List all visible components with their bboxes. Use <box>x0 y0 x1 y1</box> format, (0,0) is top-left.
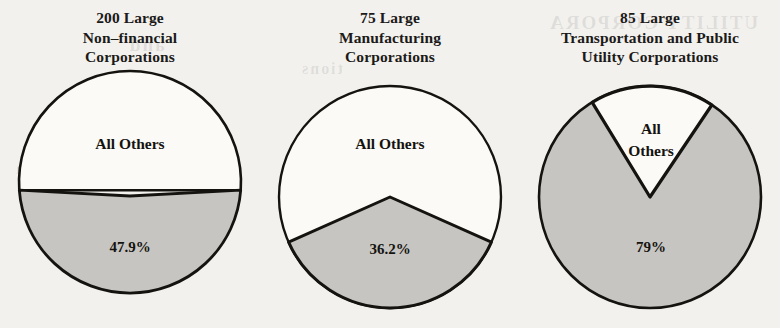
pie-slice-all-others-1 <box>19 71 241 190</box>
slice-label-percent-3: 79% <box>636 239 666 255</box>
pie-chart-panel-1: 200 Large Non–financial Corporations All… <box>0 0 260 328</box>
chart-title-line: Non–financial <box>0 28 260 48</box>
figure-sheet: and UTILITY CORPORA lion tions 200 Large… <box>0 0 780 328</box>
pie-svg-1: All Others 47.9% <box>18 86 242 310</box>
chart-title-line: Corporations <box>0 47 260 67</box>
chart-title-3: 85 Large Transportation and Public Utili… <box>520 8 780 67</box>
pie-svg-2: All Others 36.2% <box>278 86 502 310</box>
chart-title-line: 200 Large <box>0 8 260 28</box>
slice-label-all-others-1: All Others <box>95 135 164 152</box>
chart-title-line: Utility Corporations <box>520 47 780 67</box>
chart-title-1: 200 Large Non–financial Corporations <box>0 8 260 67</box>
chart-title-line: 85 Large <box>520 8 780 28</box>
pie-chart-panel-2: 75 Large Manufacturing Corporations All … <box>260 0 520 328</box>
pie-chart-panel-3: 85 Large Transportation and Public Utili… <box>520 0 780 328</box>
pie-graphic-3: All Others 79% <box>538 86 762 310</box>
slice-label-all-others-3-line2: Others <box>628 142 674 159</box>
pie-graphic-2: All Others 36.2% <box>278 86 502 310</box>
pie-svg-3: All Others 79% <box>538 86 762 310</box>
chart-title-line: 75 Large <box>260 8 520 28</box>
slice-label-all-others-2: All Others <box>355 135 424 152</box>
slice-label-percent-2: 36.2% <box>369 241 410 257</box>
chart-title-line: Corporations <box>260 47 520 67</box>
chart-title-line: Transportation and Public <box>520 28 780 48</box>
pie-graphic-1: All Others 47.9% <box>18 86 242 310</box>
slice-label-percent-1: 47.9% <box>109 239 150 255</box>
chart-title-2: 75 Large Manufacturing Corporations <box>260 8 520 67</box>
chart-title-line: Manufacturing <box>260 28 520 48</box>
slice-label-all-others-3-line1: All <box>641 120 662 137</box>
